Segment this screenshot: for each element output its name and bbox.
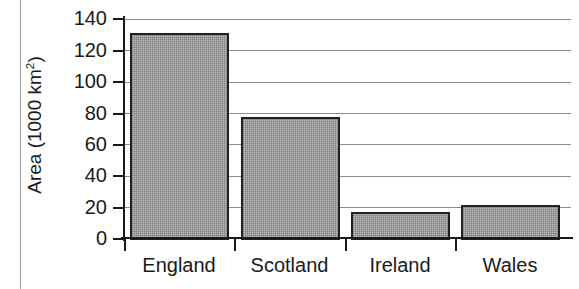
- y-tick-label-60: 60: [51, 134, 107, 154]
- y-axis-title: Area (1000 km2): [24, 25, 50, 225]
- y-tick-100: [113, 81, 124, 83]
- bar-wales: [461, 205, 560, 240]
- x-axis-label-scotland: Scotland: [234, 255, 345, 275]
- y-axis-title-superscript: 2: [23, 63, 36, 70]
- x-axis-label-ireland: Ireland: [345, 255, 455, 275]
- y-tick-0: [113, 238, 124, 240]
- x-tick-1: [234, 239, 236, 251]
- y-tick-60: [113, 144, 124, 146]
- y-axis-title-prefix: Area (1000 km: [24, 69, 45, 194]
- bar-ireland: [351, 212, 450, 240]
- chart-screenshot: Area (1000 km2) 140 120 100 80 60 40 20 …: [0, 0, 579, 289]
- x-axis-label-wales: Wales: [455, 255, 565, 275]
- x-tick-2: [345, 239, 347, 251]
- page-edge-rule: [20, 0, 21, 289]
- y-tick-label-100: 100: [51, 71, 107, 91]
- bar-scotland: [241, 117, 340, 240]
- bar-england: [130, 33, 229, 240]
- y-tick-140: [113, 18, 124, 20]
- y-tick-label-120: 120: [51, 40, 107, 60]
- y-tick-label-0: 0: [51, 228, 107, 248]
- y-axis-title-suffix: ): [24, 56, 45, 62]
- x-tick-3: [455, 239, 457, 251]
- y-tick-40: [113, 175, 124, 177]
- x-axis-line: [121, 237, 573, 239]
- y-tick-label-20: 20: [51, 197, 107, 217]
- x-axis-label-england: England: [124, 255, 234, 275]
- gridline-140: [123, 19, 571, 20]
- y-tick-label-40: 40: [51, 165, 107, 185]
- y-tick-80: [113, 113, 124, 115]
- y-tick-label-80: 80: [51, 103, 107, 123]
- x-tick-0: [124, 239, 126, 251]
- y-tick-label-140: 140: [51, 8, 107, 28]
- y-tick-120: [113, 50, 124, 52]
- y-tick-20: [113, 207, 124, 209]
